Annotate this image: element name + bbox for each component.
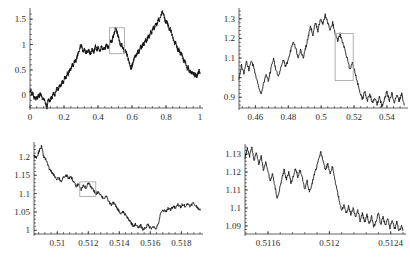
panel-top-right: 0.460.480.50.520.540.911.11.21.3 [205, 0, 410, 133]
panel-bottom-left-svg: 0.510.5120.5140.5160.51811.051.11.151.2 [0, 134, 205, 267]
panel-bottom-right-svg: 0.51160.5120.51241.091.11.111.121.13 [205, 134, 410, 267]
y-tick-label: 1.15 [14, 170, 30, 180]
panel-top-right-svg: 0.460.480.50.520.540.911.11.21.3 [205, 0, 410, 133]
panel-top-left-svg: 00.20.40.60.8100.511.5 [0, 0, 205, 133]
x-tick-label: 0.518 [171, 238, 192, 248]
y-tick-label: 0.9 [224, 92, 236, 102]
y-tick-label: 1.2 [224, 33, 235, 43]
y-tick-label: 0.5 [15, 65, 27, 75]
series-line [34, 145, 200, 231]
y-tick-label: 1 [26, 225, 31, 235]
x-tick-label: 0.516 [140, 238, 161, 248]
y-tick-label: 1 [231, 73, 236, 83]
y-tick-label: 1.09 [225, 221, 241, 231]
y-tick-label: 1.13 [225, 149, 241, 159]
x-tick-label: 0.51 [49, 238, 65, 248]
y-tick-label: 1.1 [224, 53, 235, 63]
y-tick-label: 1 [22, 40, 27, 50]
brownian-zoom-figure: 00.20.40.60.8100.511.5 0.460.480.50.520.… [0, 0, 410, 267]
y-tick-label: 1.1 [230, 203, 241, 213]
x-tick-label: 0.514 [109, 238, 130, 248]
x-tick-label: 0.2 [58, 112, 69, 122]
series-line [245, 147, 403, 231]
y-tick-label: 0 [22, 90, 27, 100]
x-tick-label: 0.5124 [378, 238, 403, 248]
x-tick-label: 0.4 [92, 112, 104, 122]
x-tick-label: 0.8 [160, 112, 172, 122]
x-tick-label: 0.48 [280, 112, 296, 122]
x-tick-label: 0.46 [248, 112, 264, 122]
x-tick-label: 0.6 [126, 112, 138, 122]
x-tick-label: 0.512 [78, 238, 98, 248]
series-line [30, 11, 200, 110]
y-tick-label: 1.05 [14, 207, 30, 217]
y-tick-label: 1.12 [225, 167, 241, 177]
x-tick-label: 0.512 [319, 238, 339, 248]
x-tick-label: 0.54 [379, 112, 395, 122]
y-tick-label: 1.1 [19, 189, 30, 199]
x-tick-label: 0 [28, 112, 33, 122]
y-tick-label: 1.11 [226, 185, 241, 195]
series-line [239, 14, 404, 108]
panel-bottom-left: 0.510.5120.5140.5160.51811.051.11.151.2 [0, 134, 205, 267]
x-tick-label: 0.52 [346, 112, 362, 122]
y-tick-label: 1.2 [19, 152, 30, 162]
y-tick-label: 1.5 [15, 14, 27, 24]
x-tick-label: 0.5 [316, 112, 328, 122]
y-tick-label: 1.3 [224, 14, 236, 24]
panel-bottom-right: 0.51160.5120.51241.091.11.111.121.13 [205, 134, 410, 267]
x-tick-label: 0.5116 [256, 238, 281, 248]
x-tick-label: 1 [198, 112, 203, 122]
panel-top-left: 00.20.40.60.8100.511.5 [0, 0, 205, 133]
